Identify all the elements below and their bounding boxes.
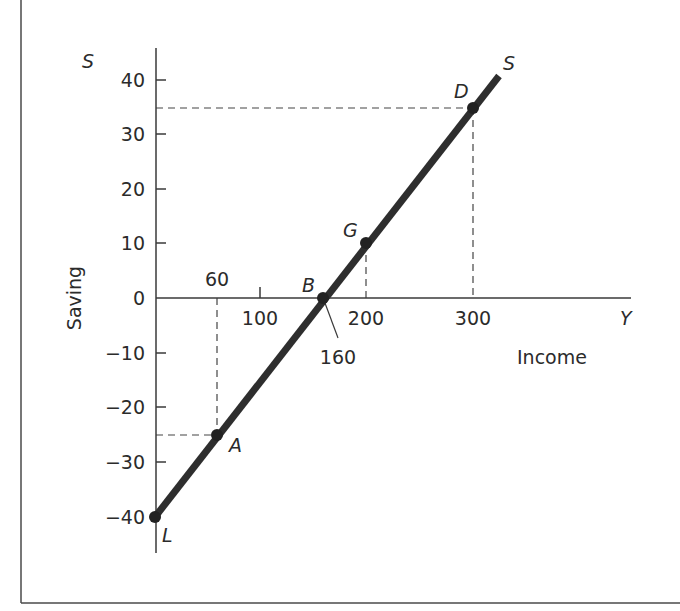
- x-axis-symbol: Y: [620, 307, 633, 329]
- y-tick-label-minus-20: −20: [105, 396, 145, 418]
- x-label-160: 160: [320, 346, 356, 368]
- x-tick-label-200: 200: [348, 307, 384, 329]
- point-label-G: G: [343, 219, 358, 241]
- y-tick-label-minus-30: −30: [105, 451, 145, 473]
- point-L: [149, 511, 161, 523]
- reference-lines: [156, 108, 473, 435]
- point-B: [317, 292, 329, 304]
- y-axis-symbol: S: [82, 50, 94, 72]
- point-G: [360, 237, 372, 249]
- x-tick-label-100: 100: [242, 307, 278, 329]
- leader-line-160: [325, 303, 338, 338]
- y-tick-label-20: 20: [121, 178, 145, 200]
- y-tick-label-30: 30: [121, 123, 145, 145]
- point-label-L: L: [162, 524, 173, 546]
- point-D: [467, 102, 479, 114]
- y-tick-label-10: 10: [121, 232, 145, 254]
- point-A: [211, 429, 223, 441]
- y-tick-label-40: 40: [121, 69, 145, 91]
- point-label-B: B: [302, 274, 315, 296]
- x-axis-title: Income: [517, 346, 587, 368]
- y-ticks: [156, 80, 166, 462]
- curve-label-S: S: [503, 52, 515, 74]
- point-label-A: A: [227, 434, 242, 456]
- x-label-60: 60: [205, 268, 229, 290]
- y-tick-label-minus-40: −40: [105, 506, 145, 528]
- point-label-D: D: [454, 80, 469, 102]
- x-tick-label-300: 300: [455, 307, 491, 329]
- saving-function-chart: 40 30 20 10 0 −10 −20 −30 −40 60 100 160…: [0, 0, 680, 611]
- y-axis-title: Saving: [63, 266, 85, 330]
- y-tick-label-0: 0: [133, 287, 145, 309]
- y-tick-label-minus-10: −10: [105, 342, 145, 364]
